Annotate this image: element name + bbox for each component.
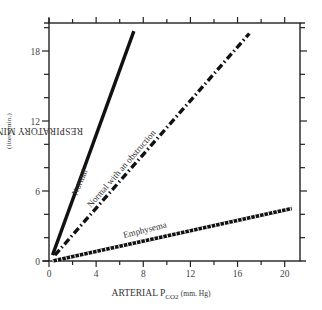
faded-caption-strip bbox=[22, 302, 312, 310]
chart-plot: 048121620061218 NormalNormal with an obs… bbox=[0, 0, 322, 300]
axis-tick-labels: 048121620061218 bbox=[31, 47, 290, 280]
svg-text:20: 20 bbox=[280, 269, 290, 279]
x-axis-unit: (mm. Hg) bbox=[181, 289, 211, 298]
svg-text:8: 8 bbox=[141, 269, 146, 279]
label-normal: Normal bbox=[70, 167, 90, 197]
y-axis-label: RESPIRATORY MINUTE VOLUME (liters/min.) bbox=[0, 0, 16, 262]
svg-text:4: 4 bbox=[94, 269, 99, 279]
svg-text:12: 12 bbox=[186, 269, 196, 279]
axis-ticks bbox=[42, 17, 307, 267]
x-axis-subscript: CO2 bbox=[165, 293, 178, 301]
y-axis-label-text: RESPIRATORY MINUTE VOLUME bbox=[0, 126, 83, 136]
series-line-emphysema-hatch bbox=[53, 209, 292, 262]
x-axis-label: ARTERIAL PCO2 (mm. Hg) bbox=[0, 288, 322, 301]
data-lines bbox=[53, 31, 292, 261]
x-axis-label-text: ARTERIAL P bbox=[112, 288, 166, 298]
svg-text:16: 16 bbox=[233, 269, 243, 279]
svg-text:6: 6 bbox=[35, 187, 40, 197]
series-line-normal bbox=[53, 31, 134, 255]
svg-text:18: 18 bbox=[31, 47, 41, 57]
axes-frame bbox=[43, 18, 306, 261]
svg-text:0: 0 bbox=[47, 269, 52, 279]
svg-text:0: 0 bbox=[35, 257, 40, 267]
